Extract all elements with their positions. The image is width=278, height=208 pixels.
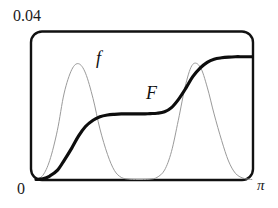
curve-label-f: f bbox=[96, 49, 101, 67]
series-group bbox=[36, 57, 252, 180]
curve-F bbox=[36, 57, 252, 180]
axis-origin-label: 0 bbox=[17, 181, 25, 197]
curve-label-F: F bbox=[146, 84, 157, 102]
curve-f bbox=[36, 63, 252, 179]
y-axis-max-label: 0.04 bbox=[13, 8, 41, 24]
plot-canvas bbox=[0, 0, 278, 208]
chart-figure: 0.04 0 π f F bbox=[0, 0, 278, 208]
x-axis-max-label: π bbox=[257, 178, 265, 193]
